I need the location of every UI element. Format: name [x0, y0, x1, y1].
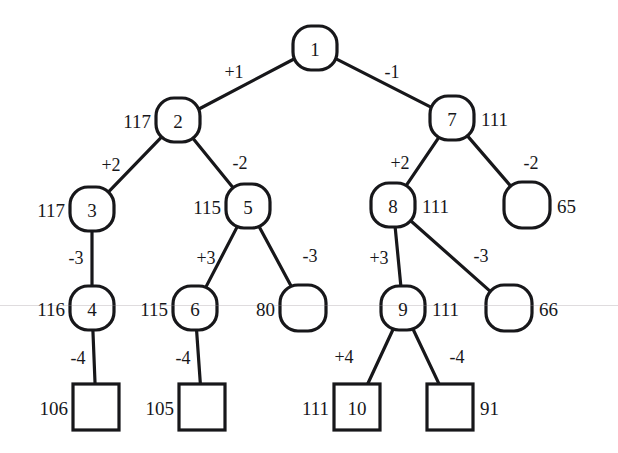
tree-edge [405, 135, 440, 187]
node-value-label: 65 [557, 197, 576, 216]
tree-edge [334, 58, 434, 109]
tree-edge [196, 329, 200, 385]
node-index-label: 7 [447, 110, 457, 129]
tree-edge [366, 327, 394, 387]
tree-leaf-node[interactable] [73, 384, 119, 430]
edge-label: +2 [101, 156, 120, 174]
edge-label: -3 [474, 247, 489, 265]
node-index-label: 8 [388, 197, 398, 216]
node-value-label: 106 [40, 399, 69, 418]
node-value-label: 80 [256, 300, 275, 319]
edge-label: -4 [450, 348, 465, 366]
node-value-label: 115 [140, 300, 168, 319]
node-value-label: 115 [193, 198, 221, 217]
tree-edge [466, 134, 513, 188]
node-index-label: 4 [87, 300, 97, 319]
node-value-label: 111 [481, 110, 508, 129]
edge-label: -4 [71, 349, 86, 367]
tree-edge [93, 329, 95, 385]
edge-label: +1 [224, 63, 243, 81]
nodes-layer [70, 26, 550, 430]
node-value-label: 105 [146, 399, 175, 418]
tree-diagram: +1-1+2-2+2-2-3+3-3+3-3-4-4+4-41211771113… [0, 0, 618, 453]
tree-node[interactable] [504, 182, 550, 228]
tree-node[interactable] [280, 285, 326, 331]
edge-label: +3 [369, 249, 388, 267]
tree-edge [197, 58, 297, 110]
tree-leaf-node[interactable] [427, 384, 473, 430]
edge-label: -3 [69, 249, 84, 267]
node-value-label: 91 [480, 399, 499, 418]
tree-edge [412, 327, 441, 387]
node-index-label: 3 [87, 201, 97, 220]
node-index-label: 6 [190, 300, 200, 319]
node-index-label: 2 [173, 112, 183, 131]
edge-label: -3 [303, 247, 318, 265]
edge-label: -1 [385, 63, 400, 81]
node-value-label: 117 [123, 112, 151, 131]
edge-label: +2 [390, 154, 409, 172]
edge-label: -4 [176, 349, 191, 367]
node-value-label: 111 [432, 300, 459, 319]
node-value-label: 116 [37, 300, 65, 319]
node-index-label: 9 [398, 300, 408, 319]
tree-edge [258, 224, 293, 288]
node-index-label: 5 [243, 198, 253, 217]
tree-leaf-node[interactable] [179, 384, 225, 430]
node-index-label: 1 [310, 40, 320, 59]
node-value-label: 117 [37, 201, 65, 220]
tree-node[interactable] [486, 285, 532, 331]
edge-label: -2 [524, 154, 539, 172]
edge-label: +4 [334, 348, 353, 366]
edge-label: -2 [233, 154, 248, 172]
node-index-label: 10 [348, 399, 367, 418]
node-value-label: 66 [539, 300, 558, 319]
tree-edge [395, 226, 401, 287]
tree-graphics [0, 0, 618, 453]
node-value-label: 111 [422, 197, 449, 216]
edge-label: +3 [196, 249, 215, 267]
tree-edge [191, 136, 234, 189]
node-value-label: 111 [302, 399, 329, 418]
